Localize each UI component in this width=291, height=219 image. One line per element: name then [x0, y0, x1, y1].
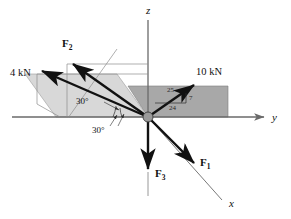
slope-label-vertical: 7 — [189, 94, 193, 102]
axis-label-x: x — [228, 197, 234, 209]
force-label-F1: F1 — [200, 156, 211, 171]
force-label-F3-subscript: 3 — [162, 173, 166, 182]
angle-label-upper: 30° — [76, 96, 89, 106]
force-label-10kn: 10 kN — [196, 66, 222, 77]
force-diagram-figure: z y x F1 F2 F3 4 kN 10 kN 30° 30° 25 7 — [0, 0, 291, 219]
axis-label-y: y — [271, 111, 277, 123]
slope-label-hypotenuse: 25 — [167, 86, 175, 94]
force-label-F3: F3 — [155, 167, 166, 182]
origin-point — [143, 112, 153, 122]
force-label-F2-subscript: 2 — [69, 43, 73, 52]
force-vector-F1 — [148, 117, 194, 163]
force-diagram-canvas: z y x F1 F2 F3 4 kN 10 kN 30° 30° 25 7 — [0, 0, 291, 219]
force-label-F1-subscript: 1 — [207, 162, 211, 171]
force-label-4kn: 4 kN — [10, 67, 31, 78]
axis-label-z: z — [145, 4, 151, 16]
shaded-planes — [25, 74, 228, 117]
force-label-F2: F2 — [62, 37, 73, 52]
slope-label-horizontal: 24 — [169, 104, 177, 112]
angle-label-lower: 30° — [92, 125, 105, 135]
